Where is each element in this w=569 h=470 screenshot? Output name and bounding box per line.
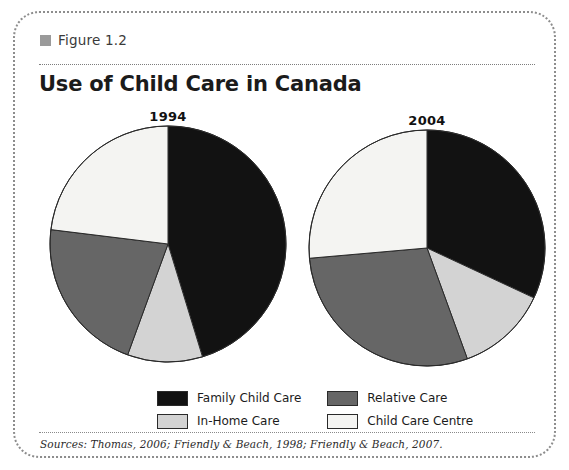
pie-chart-1994: 1994 bbox=[37, 109, 299, 371]
pie-chart-2004-year-label: 2004 bbox=[296, 113, 558, 128]
figure-label: Figure 1.2 bbox=[40, 32, 127, 48]
figure-label-square-icon bbox=[40, 35, 51, 46]
pie-slice bbox=[309, 130, 427, 258]
legend-swatch-child-care-centre bbox=[327, 414, 358, 429]
pie-chart-1994-year-label: 1994 bbox=[37, 109, 299, 124]
legend-label-family-child-care: Family Child Care bbox=[197, 391, 301, 405]
legend-label-in-home-care: In-Home Care bbox=[197, 414, 280, 428]
legend-label-relative-care: Relative Care bbox=[367, 391, 447, 405]
pie-chart-2004-svg bbox=[296, 129, 558, 375]
legend-item-in-home-care: In-Home Care bbox=[157, 411, 301, 431]
legend-item-child-care-centre: Child Care Centre bbox=[327, 411, 473, 431]
legend-item-relative-care: Relative Care bbox=[327, 388, 473, 408]
header-divider bbox=[39, 64, 535, 65]
sources-divider bbox=[39, 432, 535, 433]
figure-frame: Figure 1.2 Use of Child Care in Canada 1… bbox=[13, 11, 556, 458]
legend-label-child-care-centre: Child Care Centre bbox=[367, 414, 473, 428]
legend-swatch-relative-care bbox=[327, 391, 358, 406]
pie-chart-2004: 2004 bbox=[296, 113, 558, 375]
pie-chart-1994-svg bbox=[37, 125, 299, 371]
pie-slice bbox=[51, 126, 168, 244]
page-title: Use of Child Care in Canada bbox=[39, 72, 362, 96]
chart-legend: Family Child Care Relative Care In-Home … bbox=[157, 388, 467, 431]
figure-label-text: Figure 1.2 bbox=[58, 32, 127, 48]
legend-swatch-in-home-care bbox=[157, 414, 188, 429]
legend-swatch-family-child-care bbox=[157, 391, 188, 406]
legend-item-family-child-care: Family Child Care bbox=[157, 388, 301, 408]
sources-note: Sources: Thomas, 2006; Friendly & Beach,… bbox=[40, 438, 443, 450]
